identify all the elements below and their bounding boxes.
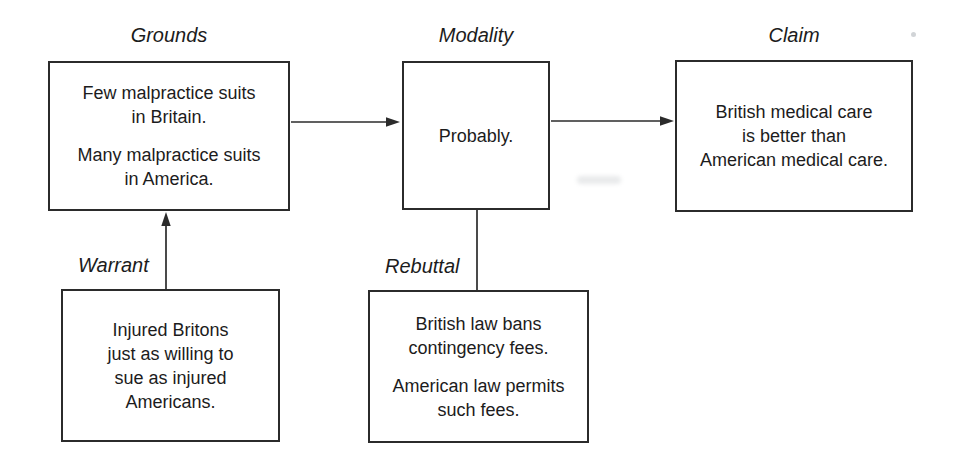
warrant-label: Warrant: [78, 254, 149, 276]
rebuttal-text-line: British law bans: [408, 312, 548, 336]
grounds-text-line: in America.: [77, 167, 260, 191]
grounds-box: Few malpractice suits in Britain. Many m…: [48, 61, 290, 211]
claim-text-line: American medical care.: [700, 148, 888, 172]
warrant-paragraph: Injured Britons just as willing to sue a…: [107, 318, 233, 414]
modality-label: Modality: [402, 24, 550, 46]
edge-grounds-modality: [291, 117, 400, 126]
edge-warrant-grounds: [161, 212, 170, 289]
toulmin-diagram: Grounds Modality Claim Warrant Rebuttal …: [0, 0, 961, 465]
modality-paragraph: Probably.: [439, 124, 514, 148]
grounds-paragraph: Few malpractice suits in Britain.: [82, 81, 255, 129]
warrant-text-line: just as willing to: [107, 342, 233, 366]
grounds-label: Grounds: [48, 24, 290, 46]
edge-modality-claim: [551, 116, 674, 125]
modality-text-line: Probably.: [439, 124, 514, 148]
modality-box: Probably.: [402, 61, 550, 210]
grounds-text-line: Many malpractice suits: [77, 143, 260, 167]
arrowhead-grounds-modality: [386, 117, 400, 126]
claim-text-line: is better than: [700, 124, 888, 148]
rebuttal-text-line: American law permits: [392, 374, 564, 398]
warrant-text-line: sue as injured: [107, 366, 233, 390]
rebuttal-box: British law bans contingency fees. Ameri…: [368, 290, 589, 443]
claim-label: Claim: [675, 24, 913, 46]
grounds-text-line: in Britain.: [82, 105, 255, 129]
warrant-text-line: Injured Britons: [107, 318, 233, 342]
claim-box: British medical care is better than Amer…: [675, 60, 913, 212]
rebuttal-paragraph: American law permits such fees.: [392, 374, 564, 422]
rebuttal-text-line: contingency fees.: [408, 336, 548, 360]
rebuttal-label: Rebuttal: [385, 255, 460, 277]
warrant-text-line: Americans.: [107, 390, 233, 414]
claim-text-line: British medical care: [700, 100, 888, 124]
arrowhead-warrant-grounds: [161, 212, 170, 226]
grounds-text-line: Few malpractice suits: [82, 81, 255, 105]
scan-smudge-artifact: [577, 176, 621, 184]
rebuttal-text-line: such fees.: [392, 398, 564, 422]
arrowhead-modality-claim: [660, 116, 674, 125]
rebuttal-paragraph: British law bans contingency fees.: [408, 312, 548, 360]
grounds-paragraph: Many malpractice suits in America.: [77, 143, 260, 191]
warrant-box: Injured Britons just as willing to sue a…: [61, 289, 280, 442]
claim-paragraph: British medical care is better than Amer…: [700, 100, 888, 172]
scan-dot-artifact: [911, 32, 916, 37]
